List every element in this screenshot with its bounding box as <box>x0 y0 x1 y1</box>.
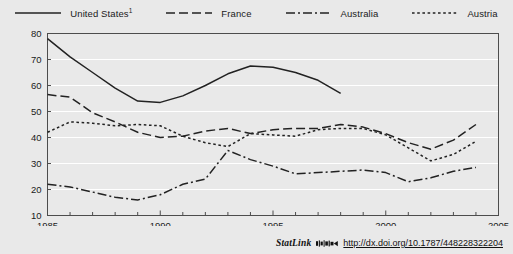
x-tick-label: 2005 <box>488 220 509 227</box>
legend-text-united-states: United States <box>70 8 128 19</box>
legend-label-france: France <box>221 8 251 19</box>
x-tick-label: 2000 <box>375 220 396 227</box>
chart-series-group <box>48 39 476 200</box>
legend-swatch-dotted-icon <box>412 8 458 18</box>
series-line-france <box>48 95 476 150</box>
legend-item-united-states: United States1 <box>15 8 132 19</box>
legend-swatch-solid-icon <box>15 8 61 18</box>
chart-legend: United States1 France Australia <box>0 0 513 26</box>
legend-item-france: France <box>166 8 251 19</box>
x-tick-label: 1995 <box>262 220 283 227</box>
legend-label-australia: Australia <box>341 8 379 19</box>
chart-plot-area: 1020304050607080 19851990199520002005 <box>0 26 513 226</box>
x-tick-label: 1990 <box>150 220 171 227</box>
legend-label-united-states: United States1 <box>70 8 132 19</box>
y-tick-label: 50 <box>31 106 42 117</box>
statlink-barcode-icon <box>316 239 338 248</box>
y-tick-label: 80 <box>31 28 42 39</box>
series-line-austria <box>48 122 476 161</box>
y-tick-label: 40 <box>31 132 42 143</box>
chart-footer: StatLink http://dx.doi.org/10.1787/44822… <box>0 234 513 252</box>
chart-x-axis: 19851990199520002005 <box>37 211 509 227</box>
legend-label-austria: Austria <box>467 8 497 19</box>
statlink-url-link[interactable]: http://dx.doi.org/10.1787/448228322204 <box>343 238 503 248</box>
chart-plot-frame <box>48 34 499 216</box>
chart-figure: United States1 France Australia <box>0 0 513 254</box>
y-tick-label: 60 <box>31 80 42 91</box>
legend-footnote-marker: 1 <box>129 6 133 13</box>
statlink-label: StatLink <box>276 238 311 248</box>
legend-item-australia: Australia <box>286 8 379 19</box>
chart-gridlines <box>48 60 499 190</box>
y-tick-label: 30 <box>31 158 42 169</box>
series-line-united-states <box>48 39 341 103</box>
y-tick-label: 20 <box>31 184 42 195</box>
legend-item-austria: Austria <box>412 8 497 19</box>
x-tick-label: 1985 <box>37 220 58 227</box>
legend-swatch-dashed-icon <box>166 8 212 18</box>
legend-swatch-dash-dot-icon <box>286 8 332 18</box>
y-tick-label: 70 <box>31 54 42 65</box>
series-line-australia <box>48 151 476 200</box>
chart-svg: 1020304050607080 19851990199520002005 <box>0 26 513 226</box>
